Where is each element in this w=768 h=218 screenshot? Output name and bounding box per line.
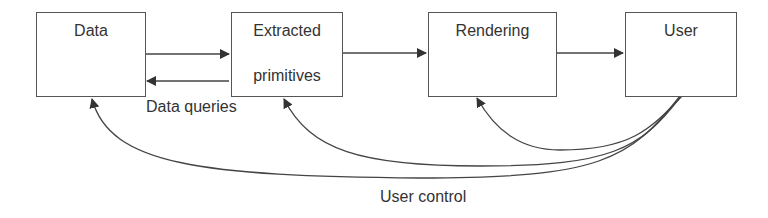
curve-user-to-rendering [477,96,682,150]
node-rendering: Rendering [428,12,557,97]
edge-label-data-queries: Data queries [146,98,237,116]
node-rendering-label: Rendering [429,22,556,40]
node-extracted-primitives: Extracted primitives [231,12,343,97]
node-data: Data [36,12,146,97]
edge-label-user-control: User control [380,188,466,206]
node-extracted-label-line1: Extracted [232,22,342,40]
node-user-label: User [626,22,736,40]
node-user: User [625,12,737,97]
node-extracted-label-line2: primitives [232,67,342,85]
node-data-label: Data [37,22,145,40]
